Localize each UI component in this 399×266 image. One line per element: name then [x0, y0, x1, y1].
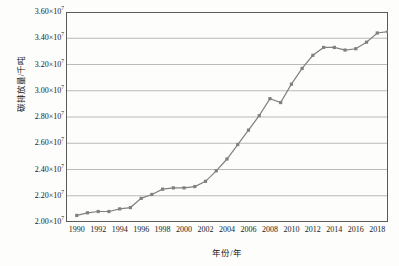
- data-point-marker: [279, 101, 282, 104]
- data-point-marker: [365, 41, 368, 44]
- data-point-marker: [268, 97, 271, 100]
- data-point-marker: [333, 46, 336, 49]
- data-point-marker: [301, 67, 304, 70]
- data-point-marker: [343, 48, 346, 51]
- data-point-marker: [236, 143, 239, 146]
- plot-area: [66, 12, 388, 222]
- data-point-marker: [311, 54, 314, 57]
- data-series-line: [77, 32, 388, 216]
- data-point-marker: [290, 83, 293, 86]
- gridlines: [66, 38, 388, 196]
- data-series-markers: [75, 30, 388, 217]
- x-tick-label: 2018: [357, 225, 397, 234]
- data-point-marker: [150, 193, 153, 196]
- data-point-marker: [182, 186, 185, 189]
- data-point-marker: [225, 157, 228, 160]
- data-point-marker: [193, 185, 196, 188]
- data-point-marker: [75, 214, 78, 217]
- data-point-marker: [386, 30, 388, 33]
- data-point-marker: [140, 197, 143, 200]
- data-point-marker: [322, 46, 325, 49]
- data-point-marker: [204, 180, 207, 183]
- data-point-marker: [97, 210, 100, 213]
- data-point-marker: [215, 169, 218, 172]
- data-point-marker: [107, 210, 110, 213]
- data-point-marker: [258, 114, 261, 117]
- data-point-marker: [86, 211, 89, 214]
- data-point-marker: [247, 129, 250, 132]
- data-point-marker: [118, 207, 121, 210]
- data-point-marker: [129, 206, 132, 209]
- data-point-marker: [354, 47, 357, 50]
- carbon-emissions-line-chart: 碳排放量/千吨 年份/年 3.60×1073.40×1073.20×1073.0…: [0, 0, 399, 266]
- data-point-marker: [172, 186, 175, 189]
- data-point-marker: [376, 31, 379, 34]
- data-point-marker: [161, 188, 164, 191]
- plot-svg: [66, 12, 388, 222]
